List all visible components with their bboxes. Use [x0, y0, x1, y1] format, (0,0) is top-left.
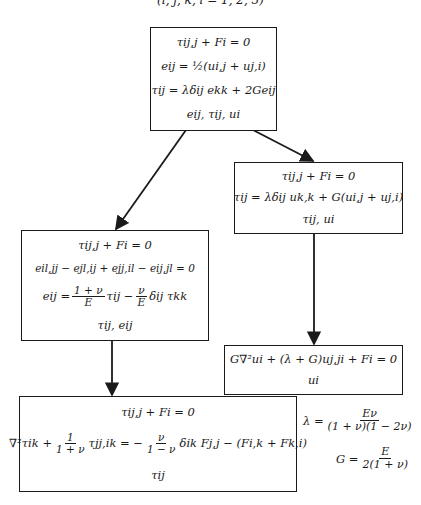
strain-displacement-equation: eij = ½(ui,j + uj,i)	[161, 60, 266, 73]
unknowns-list: τij, eij	[98, 319, 133, 332]
unknowns-list: τij	[151, 469, 165, 482]
stress-formulation-box: τij,j + Fi = 0 eil,jj − ejl,ij + ejj,il …	[21, 230, 209, 341]
inverse-hooke-law-equation: eij = 1 + ν E τij − ν E δij τkk	[43, 285, 188, 309]
fraction: E 2(1 + ν)	[360, 446, 409, 471]
fraction: ν E	[136, 285, 148, 309]
unknowns-list: ui	[308, 374, 319, 387]
arrow-top-to-right	[253, 130, 313, 161]
compatibility-equation: eil,jj − ejl,ij + ejj,il − eij,jl = 0	[35, 262, 195, 274]
arrow-top-to-left	[116, 130, 186, 229]
equilibrium-equation: τij,j + Fi = 0	[177, 36, 251, 49]
hooke-law-equation: τij = λδij ekk + 2Geij	[152, 84, 276, 97]
fraction: Eν (1 + ν)(1 − 2ν)	[326, 408, 414, 433]
navier-equation: G∇²ui + (λ + G)uj,ji + Fi = 0	[230, 353, 397, 366]
equilibrium-equation: τij,j + Fi = 0	[121, 406, 195, 419]
shear-modulus-formula: G = E 2(1 + ν)	[336, 446, 412, 471]
unknowns-list: τij, ui	[302, 213, 334, 226]
equilibrium-equation: τij,j + Fi = 0	[282, 170, 356, 183]
navier-equation-box: G∇²ui + (λ + G)uj,ji + Fi = 0 ui	[224, 345, 403, 395]
fraction: 1 + ν E	[72, 285, 105, 309]
stress-displacement-equation: τij = λδij uk,k + G(ui,j + uj,i)	[234, 191, 403, 204]
fraction: 1 1 + ν	[54, 432, 87, 456]
beltrami-michell-box: τij,j + Fi = 0 ∇²τik + 1 1 + ν τjj,ik = …	[19, 396, 297, 492]
governing-equations-box: τij,j + Fi = 0 eij = ½(ui,j + uj,i) τij …	[150, 27, 277, 131]
lame-lambda-formula: λ = Eν (1 + ν)(1 − 2ν)	[303, 408, 416, 433]
beltrami-michell-equation: ∇²τik + 1 1 + ν τjj,ik = − ν 1 − ν δik F…	[9, 432, 307, 456]
unknowns-list: eij, τij, ui	[187, 108, 240, 121]
equilibrium-equation: τij,j + Fi = 0	[78, 239, 152, 252]
displacement-formulation-box: τij,j + Fi = 0 τij = λδij uk,k + G(ui,j …	[234, 162, 403, 234]
fraction: ν 1 − ν	[145, 432, 178, 456]
